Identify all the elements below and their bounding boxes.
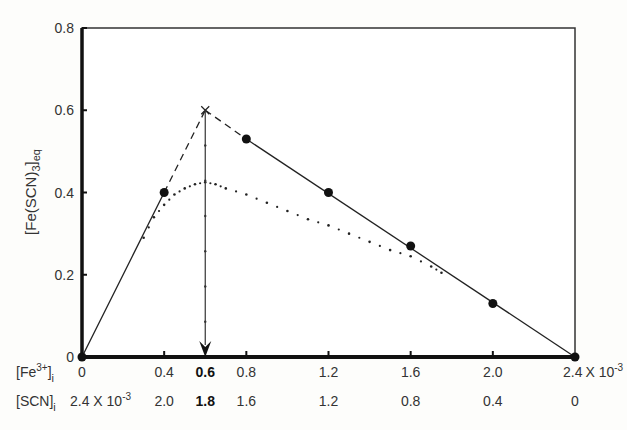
dotted-curve-dot — [209, 182, 211, 184]
y-tick-label: 0 — [66, 349, 74, 365]
dotted-curve-dot — [256, 198, 258, 200]
dotted-curve-dot — [440, 271, 443, 274]
dotted-curve-dot — [317, 221, 319, 223]
dotted-curve-dot — [142, 236, 145, 239]
dotted-curve-dot — [173, 193, 176, 196]
data-point-marker — [488, 299, 497, 308]
x-tick-label-fe: 1.6 — [401, 364, 421, 380]
dotted-curve-dot — [178, 190, 180, 192]
dotted-curve-dot — [220, 185, 222, 187]
arrow-shaft-dot — [204, 285, 206, 287]
dotted-curve-dot — [245, 193, 248, 196]
dotted-curve-dot — [235, 190, 237, 192]
dotted-curve-dot — [194, 183, 197, 186]
dotted-curve-dot — [338, 228, 340, 230]
arrow-shaft-dot — [204, 321, 206, 323]
dotted-curve-dot — [214, 183, 217, 186]
dotted-curve-dot — [183, 187, 186, 190]
dotted-curve-dot — [189, 185, 191, 187]
x-axis-ticks: 02.4 X 10-30.42.00.61.80.81.61.21.21.60.… — [70, 351, 624, 409]
x-tick-label-fe: 0 — [78, 364, 86, 380]
y-tick-label: 0.2 — [55, 267, 75, 283]
job-plot-chart: 00.20.40.60.8 02.4 X 10-30.42.00.61.80.8… — [0, 0, 627, 430]
x-tick-label-scn: 0.8 — [401, 393, 421, 409]
data-point-marker — [406, 241, 415, 250]
dotted-curve-dot — [389, 249, 392, 252]
dotted-curve-dot — [224, 187, 227, 190]
dotted-curve-dot — [368, 241, 371, 244]
x-tick-label-scn: 2.4 X 10-3 — [70, 391, 131, 409]
dotted-curve-dot — [327, 224, 330, 227]
data-point-marker — [571, 353, 580, 362]
x-tick-label-fe: 0.8 — [237, 364, 257, 380]
dotted-curve-dot — [148, 226, 150, 228]
x-tick-label-fe: 1.2 — [319, 364, 339, 380]
y-tick-label: 0.4 — [55, 185, 75, 201]
x-tick-label-scn: 2.0 — [154, 393, 174, 409]
data-point-marker — [78, 353, 87, 362]
arrow-shaft-dot — [204, 215, 206, 217]
dotted-curve-dot — [307, 218, 310, 221]
x-tick-label-fe: 0.4 — [154, 364, 174, 380]
dotted-curve-dot — [276, 206, 278, 208]
dotted-curve-dot — [358, 237, 360, 239]
dotted-curve-dot — [163, 204, 166, 207]
dotted-curve-dot — [266, 201, 269, 204]
y-tick-label: 0.8 — [55, 20, 75, 36]
x-row-label-scn: [SCN]i — [16, 393, 56, 413]
x-row-label-fe: [Fe3+]i — [16, 362, 54, 384]
x-tick-label-scn: 0.4 — [483, 393, 503, 409]
x-tick-label-scn: 1.2 — [319, 393, 339, 409]
arrow-shaft-dot — [204, 250, 206, 252]
dotted-curve-dot — [420, 260, 422, 262]
dotted-curve-dot — [409, 255, 412, 258]
dotted-curve-dot — [168, 199, 170, 201]
dotted-curve-dot — [435, 269, 437, 271]
dotted-curve-dot — [379, 245, 381, 247]
dotted-curve-dot — [430, 265, 433, 268]
dotted-curve-dot — [297, 214, 299, 216]
x-tick-label-scn: 1.8 — [196, 393, 216, 409]
y-axis-label: [Fe(SCN)3]eq — [22, 149, 42, 235]
x-tick-label-fe: 2.4X 10-3 — [563, 362, 624, 380]
dotted-curve-dot — [199, 182, 201, 184]
dotted-curve-dot — [158, 210, 160, 212]
x-tick-label-fe: 2.0 — [483, 364, 503, 380]
data-point-marker — [160, 188, 169, 197]
arrow-shaft-dot — [204, 180, 206, 182]
arrow-shaft-dot — [204, 144, 206, 146]
x-tick-label-scn: 1.6 — [237, 393, 257, 409]
x-tick-label-fe: 0.6 — [196, 364, 216, 380]
data-point-marker — [242, 135, 251, 144]
x-tick-label-scn: 0 — [571, 393, 579, 409]
dotted-curve-dot — [153, 216, 156, 219]
y-tick-label: 0.6 — [55, 102, 75, 118]
data-point-marker — [324, 188, 333, 197]
dotted-curve-dot — [399, 252, 401, 254]
dotted-curve-dot — [286, 210, 289, 213]
dotted-curve-dot — [348, 232, 351, 235]
